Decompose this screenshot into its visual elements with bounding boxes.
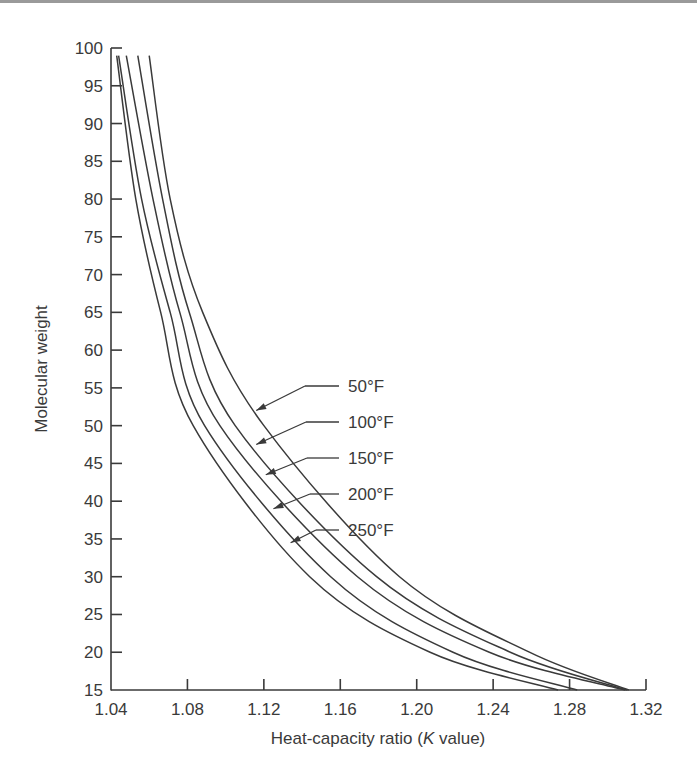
y-tick-label: 80 bbox=[84, 190, 103, 209]
x-tick-label: 1.24 bbox=[477, 700, 510, 719]
annotation-label: 100°F bbox=[348, 413, 394, 432]
y-tick-label: 70 bbox=[84, 266, 103, 285]
curve-100f bbox=[138, 56, 627, 690]
y-tick-label: 25 bbox=[84, 605, 103, 624]
y-tick-label: 100 bbox=[75, 39, 103, 58]
y-tick-label: 15 bbox=[84, 681, 103, 700]
y-tick-label: 35 bbox=[84, 530, 103, 549]
annotation-label: 200°F bbox=[348, 485, 394, 504]
x-tick-label: 1.16 bbox=[324, 700, 357, 719]
y-tick-label: 50 bbox=[84, 417, 103, 436]
y-axis-label: Molecular weight bbox=[32, 305, 51, 433]
x-axis-label: Heat-capacity ratio (K value) bbox=[271, 729, 486, 748]
y-tick-label: 45 bbox=[84, 454, 103, 473]
y-tick-label: 60 bbox=[84, 341, 103, 360]
x-tick-label: 1.32 bbox=[629, 700, 662, 719]
curves bbox=[117, 56, 629, 690]
y-tick-label: 65 bbox=[84, 303, 103, 322]
annotation-label: 150°F bbox=[348, 449, 394, 468]
x-axis-label-part1: Heat-capacity ratio ( bbox=[271, 729, 423, 748]
annotation-100f: 100°F bbox=[256, 413, 393, 445]
arrowhead-icon bbox=[266, 468, 276, 475]
x-axis-label-part2: K bbox=[423, 729, 435, 748]
annotation-50f: 50°F bbox=[256, 377, 384, 411]
curve-200f bbox=[119, 56, 578, 690]
y-tick-label: 90 bbox=[84, 115, 103, 134]
curve-150f bbox=[126, 56, 625, 690]
x-tick-label: 1.04 bbox=[94, 700, 127, 719]
arrowhead-icon bbox=[256, 403, 266, 410]
annotations: 50°F100°F150°F200°F250°F bbox=[256, 377, 393, 543]
y-tick-label: 40 bbox=[84, 492, 103, 511]
x-axis-label-part3: value) bbox=[434, 729, 485, 748]
curve-50f bbox=[149, 56, 629, 690]
x-tick-label: 1.20 bbox=[400, 700, 433, 719]
annotation-200f: 200°F bbox=[273, 485, 393, 509]
x-tick-label: 1.12 bbox=[247, 700, 280, 719]
arrowhead-icon bbox=[256, 437, 266, 444]
x-tick-label: 1.08 bbox=[171, 700, 204, 719]
annotation-250f: 250°F bbox=[291, 521, 394, 543]
x-tick-label: 1.28 bbox=[553, 700, 586, 719]
y-tick-label: 55 bbox=[84, 379, 103, 398]
y-tick-label: 85 bbox=[84, 152, 103, 171]
y-tick-label: 75 bbox=[84, 228, 103, 247]
arrowhead-icon bbox=[291, 535, 301, 542]
y-tick-label: 20 bbox=[84, 643, 103, 662]
annotation-label: 250°F bbox=[348, 521, 394, 540]
chart: 15202530354045505560657075808590951001.0… bbox=[0, 0, 697, 779]
y-tick-label: 30 bbox=[84, 568, 103, 587]
annotation-label: 50°F bbox=[348, 377, 384, 396]
y-tick-label: 95 bbox=[84, 77, 103, 96]
